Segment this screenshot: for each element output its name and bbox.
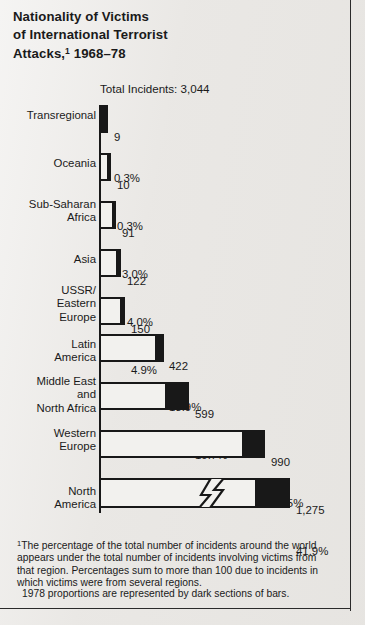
bar-category-label: Oceania xyxy=(0,157,96,170)
title-line-1: Nationality of Victims xyxy=(13,8,313,26)
bar-sub-saharan-africa[interactable] xyxy=(99,201,116,229)
title-line-3-pre: Attacks, xyxy=(13,46,65,61)
page-rule-bottom xyxy=(0,608,351,609)
bar-north-america[interactable] xyxy=(99,478,290,508)
footnote-1: 1The percentage of the total number of i… xyxy=(17,538,329,589)
total-incidents-label: Total Incidents: 3,044 xyxy=(100,82,210,95)
title-line-3-post: 1968–78 xyxy=(70,46,126,61)
bar-1978-segment xyxy=(155,336,162,360)
footnote-2: 1978 proportions are represented by dark… xyxy=(22,588,334,600)
axis-break-icon xyxy=(198,478,228,508)
bar-value: 9 xyxy=(114,131,140,145)
footnote-1-text: The percentage of the total number of in… xyxy=(17,540,318,588)
bar-1978-segment xyxy=(116,251,119,275)
bar-category-label: Transregional xyxy=(0,109,96,122)
bar-category-label: Western Europe xyxy=(0,427,96,454)
bar-1978-segment xyxy=(255,480,288,506)
bar-latin-america[interactable] xyxy=(99,334,164,362)
title-line-2: of International Terrorist xyxy=(13,26,313,44)
page-title: Nationality of Victims of International … xyxy=(13,8,313,62)
bar-percent: 4.9% xyxy=(131,364,157,378)
bar-1978-segment xyxy=(112,203,114,227)
bar-category-label: Sub-Saharan Africa xyxy=(0,198,96,225)
bar-ussr-eastern-europe[interactable] xyxy=(99,297,125,325)
bar-category-label: USSR/ Eastern Europe xyxy=(0,284,96,324)
bar-category-label: Asia xyxy=(0,253,96,266)
bar-1978-segment xyxy=(165,384,187,408)
bar-chart: Transregional 9 0.3% Oceania 10 0.3% Sub… xyxy=(0,100,350,525)
bar-value: 990 xyxy=(271,456,303,470)
bar-transregional[interactable] xyxy=(99,105,108,133)
bar-category-label: North America xyxy=(0,485,96,512)
bar-value: 422 xyxy=(169,360,201,374)
bar-1978-segment xyxy=(120,299,123,323)
page-rule-right xyxy=(350,0,351,611)
bar-value: 1,275 xyxy=(296,504,328,518)
bar-category-label: Middle East and North Africa xyxy=(0,375,96,415)
bar-value: 599 xyxy=(195,408,227,422)
bar-oceania[interactable] xyxy=(99,153,111,181)
bar-1978-segment xyxy=(107,155,109,179)
title-line-3: Attacks,1 1968–78 xyxy=(13,43,313,62)
bar-value: 122 xyxy=(127,275,153,289)
bar-middle-east-north-africa[interactable] xyxy=(99,382,189,410)
bar-category-label: Latin America xyxy=(0,338,96,365)
bar-western-europe[interactable] xyxy=(99,430,265,458)
bar-value: 10 xyxy=(117,179,143,193)
bar-value: 91 xyxy=(122,227,148,241)
bar-asia[interactable] xyxy=(99,249,121,277)
chart-page: Nationality of Victims of International … xyxy=(0,0,365,625)
bar-1978-segment xyxy=(242,432,263,456)
